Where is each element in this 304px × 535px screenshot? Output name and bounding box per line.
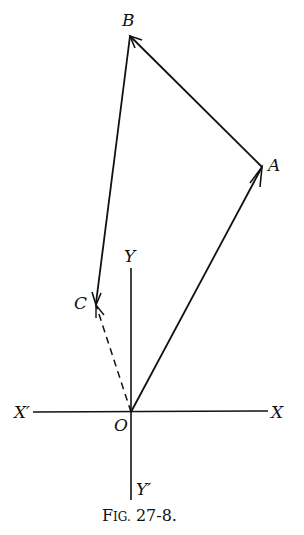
label-b: B <box>121 10 135 30</box>
label-c: C <box>74 293 87 313</box>
vector-diagram: B A C Y X X′ O Y′ FIG. 27-8. <box>0 0 304 535</box>
vector-ab <box>130 36 262 167</box>
x-axis <box>33 411 268 412</box>
label-y-prime: Y′ <box>136 479 151 499</box>
label-x: X <box>269 402 284 422</box>
label-origin: O <box>114 415 128 435</box>
vector-oa <box>131 167 262 412</box>
label-a: A <box>266 155 280 175</box>
label-y: Y <box>124 246 137 266</box>
vector-oc-dashed <box>96 305 131 412</box>
figure-caption: FIG. 27-8. <box>102 506 177 525</box>
label-x-prime: X′ <box>12 402 30 422</box>
